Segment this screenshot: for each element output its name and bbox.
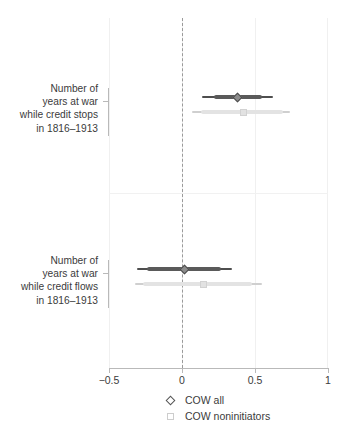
x-axis-tick-label: 0 [179,374,185,386]
category-label-line: while credit flows [0,280,98,293]
x-axis-tick-label: 1 [325,374,331,386]
category-label-line: Number of [0,254,98,267]
zero-reference-line [182,18,183,368]
y-axis-segment-bottom [108,260,109,308]
square-icon [163,413,177,420]
legend-label: COW noninitiators [185,410,270,422]
point-estimate-marker [240,109,247,116]
x-axis-tick-label: 0.5 [248,374,263,386]
point-estimate-marker [200,281,207,288]
x-axis-tick-label: −0.5 [99,374,120,386]
x-axis-line [109,368,329,369]
coefficient-plot: Number of years at war while credit stop… [0,0,346,433]
confidence-interval-inner [143,282,253,286]
plot-area [109,18,328,368]
diamond-icon [163,397,177,404]
legend-item-cow-noninitiators: COW noninitiators [163,408,270,424]
y-axis-tick-2 [103,273,108,274]
x-axis-tick [255,368,256,373]
category-label-credit-stops: Number of years at war while credit stop… [0,82,98,135]
y-axis-tick-1 [103,101,108,102]
legend-label: COW all [185,394,224,406]
y-axis-segment-top [108,88,109,136]
category-label-line: in 1816–1913 [0,122,98,135]
x-axis-tick [328,368,329,373]
legend-item-cow-all: COW all [163,392,270,408]
category-label-line: Number of [0,82,98,95]
category-label-credit-flows: Number of years at war while credit flow… [0,254,98,307]
x-axis-tick [109,368,110,373]
x-axis-tick [182,368,183,373]
category-label-line: in 1816–1913 [0,294,98,307]
panel-separator [109,193,328,194]
category-label-line: while credit stops [0,108,98,121]
category-label-line: years at war [0,95,98,108]
legend: COW all COW noninitiators [163,392,270,424]
category-label-line: years at war [0,267,98,280]
